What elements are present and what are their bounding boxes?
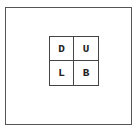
cell-label: L: [58, 67, 65, 79]
face-grid: D U L B: [49, 36, 99, 86]
cell-label: B: [83, 67, 90, 79]
cell-label: D: [58, 43, 65, 55]
grid-cell-top-right: U: [74, 37, 98, 61]
cell-label: U: [83, 43, 90, 55]
grid-cell-bottom-right: B: [74, 61, 98, 85]
grid-cell-bottom-left: L: [50, 61, 74, 85]
grid-cell-top-left: D: [50, 37, 74, 61]
